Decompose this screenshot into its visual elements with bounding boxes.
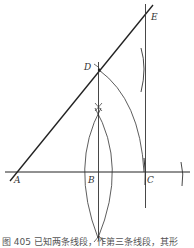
label-c: C [147, 176, 154, 185]
point-d-marker [98, 69, 100, 71]
line-ade [10, 5, 153, 181]
arc-mark-right [181, 162, 183, 186]
label-d: D [84, 63, 91, 72]
label-e: E [151, 13, 158, 22]
arc-mark-ce [141, 48, 144, 92]
geometry-construction-diagram [0, 0, 194, 248]
label-a: A [14, 176, 21, 185]
lens-arc-right [95, 108, 112, 238]
arc-d-to-c [99, 70, 144, 172]
label-b: B [88, 176, 95, 185]
figure-caption: 图 405 已知两条线段，作第三条线段，其形 [2, 238, 194, 247]
